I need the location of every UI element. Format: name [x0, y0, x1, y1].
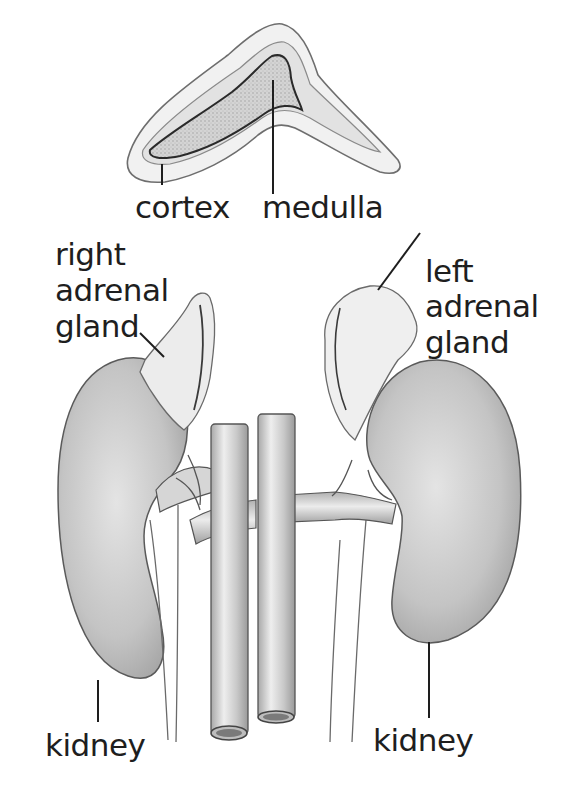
anatomy-illustration	[0, 0, 564, 792]
label-right-adrenal-line2: adrenal	[55, 272, 169, 308]
label-left-adrenal-line3: gland	[425, 324, 509, 360]
label-left-adrenal-line2: adrenal	[425, 288, 539, 324]
anatomy-figure: cortex medulla right adrenal gland left …	[0, 0, 564, 792]
label-medulla: medulla	[262, 189, 383, 225]
label-cortex: cortex	[135, 189, 230, 225]
label-right-adrenal-line3: gland	[55, 308, 139, 344]
label-right-adrenal-line1: right	[55, 236, 125, 272]
adrenal-cross-section	[127, 24, 400, 194]
label-kidney-left: kidney	[45, 727, 145, 763]
label-left-adrenal-line1: left	[425, 253, 473, 289]
great-vessels	[176, 414, 396, 740]
label-kidney-right: kidney	[373, 722, 473, 758]
